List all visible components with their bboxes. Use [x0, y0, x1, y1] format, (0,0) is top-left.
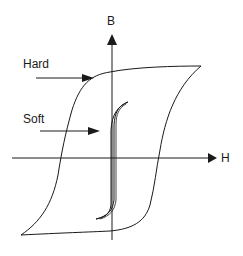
soft-loop-inner — [100, 104, 126, 219]
b-axis-arrowhead-icon — [107, 34, 117, 45]
hysteresis-diagram — [0, 0, 243, 256]
hard-label: Hard — [23, 58, 49, 70]
soft-label: Soft — [23, 113, 44, 125]
h-axis-arrowhead-icon — [208, 153, 217, 163]
b-axis-label: B — [107, 15, 115, 27]
soft-arrow-head-icon — [88, 127, 100, 135]
h-axis-label: H — [221, 152, 230, 164]
